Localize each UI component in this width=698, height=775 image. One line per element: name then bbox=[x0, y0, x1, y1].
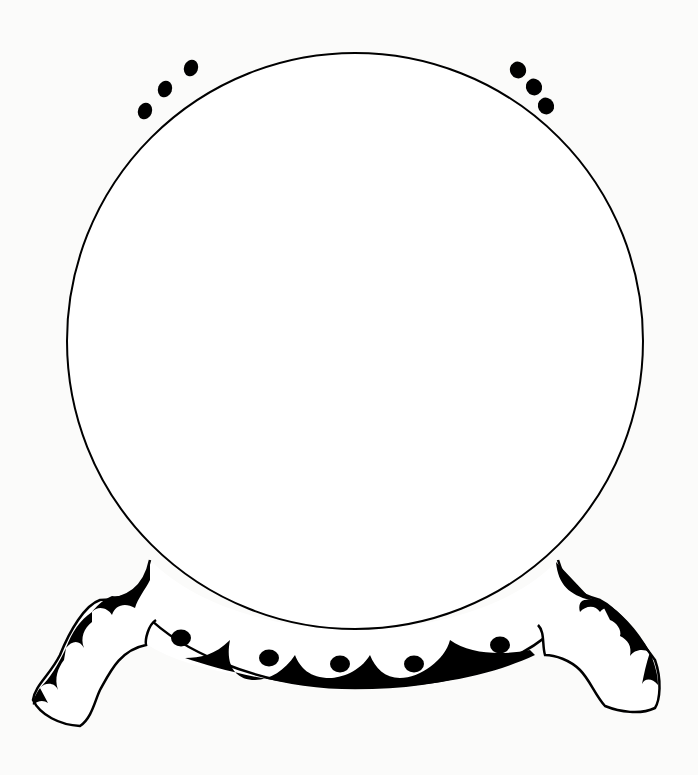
band-dot bbox=[404, 656, 424, 673]
sparkle-dot bbox=[535, 95, 557, 118]
stand-leg-left bbox=[33, 560, 156, 726]
sparkle-dot bbox=[523, 76, 545, 99]
crystal-ball bbox=[67, 53, 643, 629]
illustration-canvas bbox=[0, 0, 698, 775]
band-dot bbox=[171, 630, 191, 647]
sparkle-dot bbox=[507, 59, 529, 82]
band-dot bbox=[490, 637, 510, 654]
stand-leg-right bbox=[538, 560, 660, 712]
sparkle-dot bbox=[156, 79, 175, 100]
band-dot bbox=[259, 650, 279, 667]
sparkle-dot bbox=[182, 58, 201, 79]
crystal-ball-illustration bbox=[0, 0, 698, 775]
band-dot bbox=[330, 656, 350, 673]
sparkle-dot bbox=[136, 101, 155, 122]
